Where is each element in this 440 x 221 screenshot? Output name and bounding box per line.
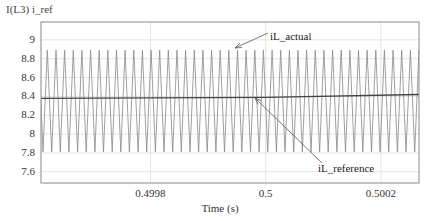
x-tick-label: 0.5 — [236, 187, 296, 199]
y-tick-label: 8.4 — [5, 89, 35, 101]
y-tick-label: 7.8 — [5, 146, 35, 158]
series-il-actual — [39, 50, 424, 152]
y-tick-label: 7.6 — [5, 165, 35, 177]
y-tick-label: 8.8 — [5, 52, 35, 64]
chart-title: I(L3) i_ref — [6, 3, 53, 15]
y-tick-label: 8.6 — [5, 71, 35, 83]
y-tick-label: 8.2 — [5, 108, 35, 120]
plot-frame — [41, 22, 419, 183]
y-tick-label: 9 — [5, 33, 35, 45]
x-tick-label: 0.5002 — [351, 187, 411, 199]
annotation-arrow — [235, 33, 268, 48]
x-tick-label: 0.4998 — [120, 187, 180, 199]
annotation-label: iL_actual — [270, 30, 312, 42]
annotation-label: iL_reference — [318, 162, 374, 174]
x-axis-label: Time (s) — [0, 202, 440, 214]
y-tick-label: 8 — [5, 127, 35, 139]
